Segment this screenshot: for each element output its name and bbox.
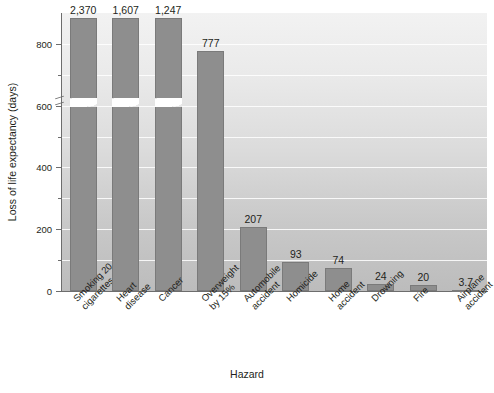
- y-axis-minor-tick: [58, 75, 62, 76]
- y-axis-title: Loss of life expectancy (days): [4, 13, 20, 291]
- y-axis-tick-label: 400: [36, 162, 52, 173]
- bar: [70, 18, 97, 291]
- bar-value-label: 74: [332, 254, 344, 266]
- bar-value-label: 777: [202, 37, 220, 49]
- bar-axis-break-wave: [155, 98, 182, 107]
- y-axis-tick: [56, 167, 62, 168]
- y-axis-minor-tick: [58, 198, 62, 199]
- bar-value-label: 93: [290, 248, 302, 260]
- bar-value-label: 1,247: [155, 4, 181, 16]
- y-axis-minor-tick: [58, 137, 62, 138]
- bar-axis-break-wave: [112, 98, 139, 107]
- y-axis-tick: [56, 291, 62, 292]
- bar-axis-break-wave: [70, 98, 97, 107]
- y-axis-tick: [56, 106, 62, 107]
- y-axis-tick-label: 800: [36, 38, 52, 49]
- y-axis-title-text: Loss of life expectancy (days): [6, 83, 18, 221]
- bar: [197, 51, 224, 291]
- bar: [155, 18, 182, 291]
- y-axis-tick: [56, 44, 62, 45]
- x-axis-title: Hazard: [0, 368, 494, 380]
- y-axis-line: [61, 13, 62, 291]
- bar-value-label: 207: [244, 213, 262, 225]
- y-axis-tick-label: 600: [36, 100, 52, 111]
- y-axis-tick-label: 0: [47, 286, 52, 297]
- y-axis-tick: [56, 229, 62, 230]
- bar-value-label: 20: [417, 271, 429, 283]
- y-axis-tick-label: 200: [36, 224, 52, 235]
- y-axis-minor-tick: [58, 260, 62, 261]
- bar-value-label: 2,370: [70, 4, 96, 16]
- bar-chart-figure: Loss of life expectancy (days) Hazard 02…: [0, 0, 494, 393]
- bar: [112, 18, 139, 291]
- bar-value-label: 1,607: [113, 4, 139, 16]
